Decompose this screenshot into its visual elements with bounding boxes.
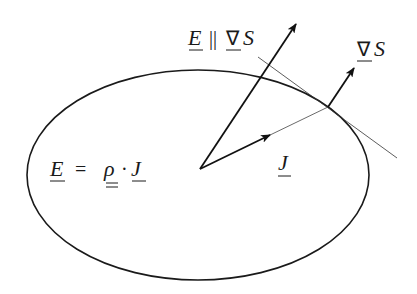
label-e-parallel-grad-s: E || ∇ S (187, 25, 254, 50)
label-rho: ρ (103, 156, 115, 181)
label-j: J (131, 156, 142, 181)
dot-operator: · (121, 158, 128, 180)
diagram-canvas: E || ∇ S ∇ S E = ρ · J J (0, 0, 417, 294)
label-s: S (374, 36, 385, 61)
label-j-vector: J (278, 150, 291, 176)
label-s: S (243, 25, 254, 50)
label-j: J (278, 150, 289, 175)
label-constitutive-relation: E = ρ · J (49, 156, 146, 187)
label-e: E (187, 25, 202, 50)
grad-s-vector-arrow (328, 68, 354, 107)
equals-sign: = (75, 158, 86, 180)
label-grad-s: ∇ S (356, 36, 385, 61)
j-extension-line (268, 107, 328, 136)
label-e: E (49, 156, 64, 181)
nabla-symbol: ∇ (356, 38, 371, 60)
parallel-symbol: || (209, 27, 217, 50)
nabla-symbol: ∇ (225, 27, 240, 49)
